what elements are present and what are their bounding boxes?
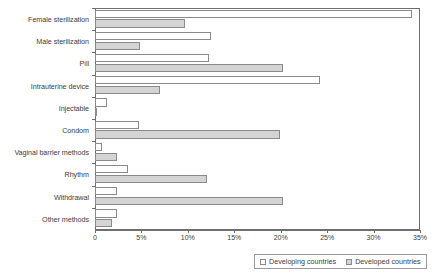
bar-row: Condom: [95, 119, 420, 141]
category-label: Vaginal barrier methods: [14, 148, 89, 157]
bar-developing: [95, 10, 412, 18]
bar-row: Female sterilization: [95, 8, 420, 30]
bar-developed: [95, 175, 207, 183]
category-label: Injectable: [59, 103, 89, 112]
x-axis-tick-label: 30%: [367, 234, 381, 241]
category-label: Pill: [80, 59, 89, 68]
x-axis-tick-label: 5%: [136, 234, 146, 241]
category-label: Rhythm: [65, 170, 89, 179]
bar-developed: [95, 130, 280, 138]
bar-developed: [95, 19, 185, 27]
x-axis-tick: [420, 230, 421, 233]
x-axis-tick: [374, 230, 375, 233]
x-axis-tick: [95, 230, 96, 233]
bar-developing: [95, 121, 139, 129]
bar-developing: [95, 76, 320, 84]
bar-developing: [95, 54, 209, 62]
bar-developed: [95, 219, 112, 227]
bar-developing: [95, 32, 211, 40]
bar-developing: [95, 98, 107, 106]
bar-developing: [95, 187, 117, 195]
chart-legend: Developing countriesDeveloped countries: [254, 254, 427, 269]
x-axis-tick: [188, 230, 189, 233]
x-axis-tick: [141, 230, 142, 233]
bar-row: Intrauterine device: [95, 75, 420, 97]
x-axis-tick-label: 25%: [320, 234, 334, 241]
bar-developed: [95, 64, 283, 72]
bar-row: Vaginal barrier methods: [95, 141, 420, 163]
bar-row: Other methods: [95, 208, 420, 230]
bar-row: Rhythm: [95, 163, 420, 185]
legend-label: Developed countries: [355, 257, 421, 266]
bar-row: Pill: [95, 52, 420, 74]
bar-developed: [95, 153, 117, 161]
contraceptive-methods-bar-chart: Female sterilizationMale sterilizationPi…: [0, 0, 440, 277]
bar-row: Male sterilization: [95, 30, 420, 52]
x-axis: 05%10%15%20%25%30%35%: [95, 230, 420, 231]
legend-entry-developed: Developed countries: [346, 257, 421, 266]
category-label: Other methods: [42, 214, 89, 223]
bar-developing: [95, 143, 102, 151]
bar-developing: [95, 209, 117, 217]
bar-developing: [95, 165, 128, 173]
bar-rows-container: Female sterilizationMale sterilizationPi…: [95, 8, 420, 230]
x-axis-tick: [281, 230, 282, 233]
category-label: Male sterilization: [36, 37, 89, 46]
category-label: Condom: [62, 126, 89, 135]
legend-label: Developing countries: [269, 257, 336, 266]
x-axis-tick-label: 20%: [274, 234, 288, 241]
category-label: Intrauterine device: [31, 81, 89, 90]
category-label: Withdrawal: [54, 192, 89, 201]
bar-developed: [95, 86, 160, 94]
bar-developed: [95, 197, 283, 205]
legend-swatch-icon: [346, 259, 352, 265]
legend-entry-developing: Developing countries: [260, 257, 336, 266]
category-label: Female sterilization: [28, 15, 89, 24]
bar-developed: [95, 42, 140, 50]
bar-row: Injectable: [95, 97, 420, 119]
bar-row: Withdrawal: [95, 186, 420, 208]
x-axis-tick-label: 15%: [227, 234, 241, 241]
x-axis-tick-label: 10%: [181, 234, 195, 241]
x-axis-tick-label: 0: [93, 234, 97, 241]
x-axis-tick-label: 35%: [413, 234, 427, 241]
bar-developed: [95, 108, 97, 116]
legend-swatch-icon: [260, 259, 266, 265]
x-axis-tick: [234, 230, 235, 233]
x-axis-tick: [327, 230, 328, 233]
